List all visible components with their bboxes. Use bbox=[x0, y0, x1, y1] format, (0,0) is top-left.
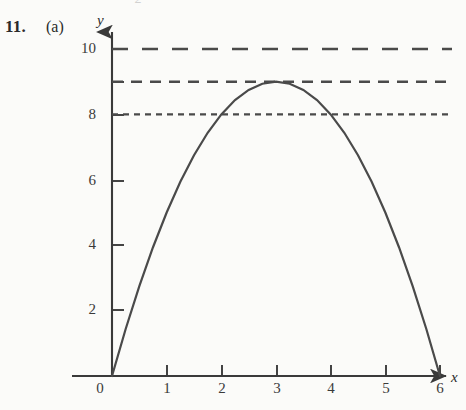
x-tick-label-5: 5 bbox=[376, 380, 396, 397]
x-tick-label-2: 2 bbox=[212, 380, 232, 397]
x-axis-ticks bbox=[167, 365, 440, 376]
x-tick-label-0: 0 bbox=[90, 380, 110, 397]
x-tick-label-3: 3 bbox=[267, 380, 287, 397]
y-axis-ticks bbox=[112, 49, 124, 310]
x-tick-label-6: 6 bbox=[430, 380, 450, 397]
y-tick-label-8: 8 bbox=[70, 106, 96, 123]
parabola-curve bbox=[112, 82, 440, 376]
y-tick-label-2: 2 bbox=[70, 301, 96, 318]
x-tick-label-1: 1 bbox=[157, 380, 177, 397]
y-tick-label-6: 6 bbox=[70, 172, 96, 189]
x-tick-label-4: 4 bbox=[321, 380, 341, 397]
figure-root: · · · 2 · 11. (a) y x bbox=[0, 0, 466, 410]
plot-canvas bbox=[0, 0, 466, 410]
y-tick-label-4: 4 bbox=[70, 236, 96, 253]
y-tick-label-10: 10 bbox=[70, 40, 96, 57]
